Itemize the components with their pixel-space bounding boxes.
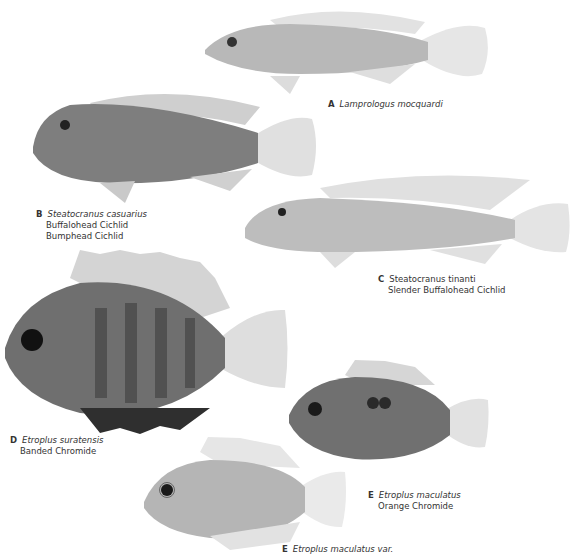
common-name: Orange Chromide [368,501,461,512]
common-name: Slender Buffalohead Cichlid [378,285,505,296]
caption-c: CSteatocranus tinanti Slender Buffalohea… [378,274,505,296]
scientific-name: Etroplus maculatus var. [293,544,393,554]
scientific-name: Etroplus suratensis [22,435,103,445]
caption-d: DEtroplus suratensis Banded Chromide [10,435,103,457]
caption-b: BSteatocranus casuarius Buffalohead Cich… [36,209,147,242]
fish-e-var-illustration [140,432,350,552]
scientific-name: Etroplus maculatus [379,490,461,500]
common-name: Buffalohead Cichlid [36,220,147,231]
common-name: Banded Chromide [10,446,103,457]
scientific-name: Steatocranus casuarius [47,209,147,219]
caption-e-var: EEtroplus maculatus var. [282,544,393,555]
scientific-name: Steatocranus tinanti [389,274,475,284]
fish-d-illustration [0,248,290,436]
fish-a-illustration [200,2,490,97]
caption-a: ALamprologus mocquardi [328,99,443,110]
scientific-name: Lamprologus mocquardi [340,99,443,109]
caption-e: EEtroplus maculatus Orange Chromide [368,490,461,512]
common-name: Bumphead Cichlid [36,231,147,242]
